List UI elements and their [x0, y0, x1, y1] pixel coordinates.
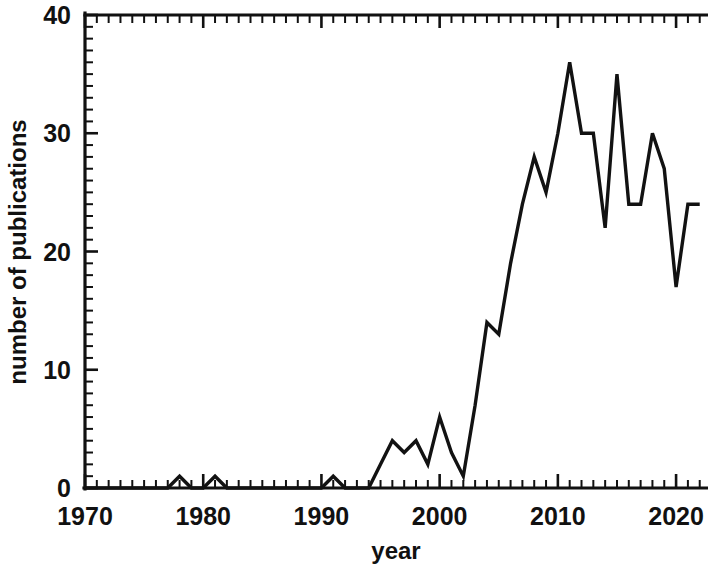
y-tick-label: 40 [43, 1, 71, 29]
y-axis-tick-labels: 010203040 [43, 1, 71, 502]
x-tick-label: 1990 [294, 502, 350, 530]
y-tick-label: 0 [57, 474, 71, 502]
x-tick-label: 1970 [57, 502, 113, 530]
x-axis-tick-labels: 197019801990200020102020 [57, 502, 704, 530]
y-tick-label: 30 [43, 119, 71, 147]
x-tick-label: 2000 [412, 502, 468, 530]
y-tick-label: 10 [43, 356, 71, 384]
x-axis-title: year [371, 537, 420, 564]
chart-canvas: 010203040 197019801990200020102020 year … [0, 0, 708, 579]
publications-per-year-line-chart: 010203040 197019801990200020102020 year … [0, 0, 708, 579]
y-tick-label: 20 [43, 238, 71, 266]
x-tick-label: 2020 [648, 502, 704, 530]
y-axis-title: number of publications [4, 119, 31, 384]
x-tick-label: 1980 [175, 502, 231, 530]
x-tick-label: 2010 [530, 502, 586, 530]
